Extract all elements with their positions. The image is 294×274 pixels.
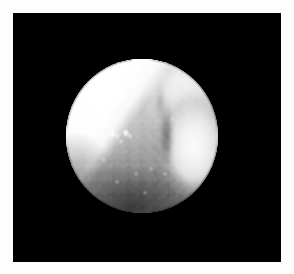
image-canvas bbox=[0, 0, 294, 274]
endoscopic-field-of-view bbox=[66, 59, 218, 213]
optical-blur-layer bbox=[66, 59, 218, 213]
letterbox-frame bbox=[13, 13, 281, 262]
field-of-view-wrapper bbox=[13, 13, 281, 262]
